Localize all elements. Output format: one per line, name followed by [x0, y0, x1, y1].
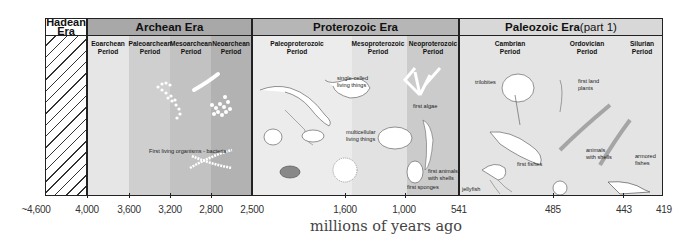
axis-label-4600: ~4,600 — [21, 204, 50, 215]
tick-3200 — [170, 193, 171, 198]
tick-3600 — [129, 193, 130, 198]
tick-443 — [623, 193, 624, 198]
axis-label-4000: 4,000 — [75, 204, 99, 215]
axis-label-3200: 3,200 — [158, 204, 182, 215]
tick-1600 — [345, 193, 346, 198]
axis-title: millions of years ago — [0, 218, 692, 234]
axis-label-2800: 2,800 — [199, 204, 223, 215]
axis-label-485: 485 — [545, 204, 561, 215]
axis-label-3600: 3,600 — [117, 204, 141, 215]
axis-label-541: 541 — [451, 204, 467, 215]
tick-1000 — [405, 193, 406, 198]
axis-label-419: 419 — [656, 204, 672, 215]
tick-2800 — [211, 193, 212, 198]
axis-label-443: 443 — [616, 204, 632, 215]
axis-label-2500: 2,500 — [240, 204, 264, 215]
timeline-frame — [45, 18, 663, 196]
tick-4000 — [87, 193, 88, 198]
axis-label-1600: 1,600 — [333, 204, 357, 215]
axis-label-1000: 1,000 — [392, 204, 416, 215]
tick-485 — [553, 193, 554, 198]
